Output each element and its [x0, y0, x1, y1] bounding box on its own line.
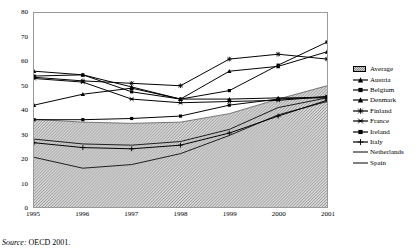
data-point-square	[34, 118, 36, 121]
legend-marker-line-icon	[352, 147, 369, 157]
source-prefix: Source:	[2, 238, 27, 247]
legend-item-netherlands[interactable]: Netherlands	[352, 147, 418, 157]
data-point-square	[130, 117, 133, 120]
x-tick-label: 1999	[223, 210, 237, 218]
legend-marker-hatched-swatch-icon	[352, 64, 369, 74]
data-point-square	[228, 104, 231, 107]
legend-marker-plus-icon	[352, 137, 369, 147]
y-tick-label: 10	[21, 180, 28, 187]
y-tick-label: 70	[21, 33, 28, 40]
legend-label: France	[370, 117, 389, 125]
x-tick-label: 2001	[321, 210, 335, 218]
data-point-square	[81, 118, 84, 121]
data-point-square	[325, 41, 327, 44]
data-point-square	[358, 129, 362, 133]
data-point-asterisk	[325, 57, 327, 62]
y-tick-label: 50	[21, 82, 28, 89]
legend-swatch-icon	[353, 66, 366, 72]
data-point-triangle	[325, 50, 327, 54]
legend-item-austria[interactable]: Austria	[352, 74, 418, 84]
data-point-square	[130, 90, 133, 93]
y-axis: 01020304050607080	[0, 12, 31, 208]
x-tick-label: 1995	[26, 210, 40, 218]
data-point-square	[179, 114, 182, 117]
legend-marker-square-icon	[352, 127, 369, 137]
legend-item-italy[interactable]: Italy	[352, 137, 418, 147]
legend-item-ireland[interactable]: Ireland	[352, 126, 418, 136]
plot-canvas	[34, 13, 327, 207]
data-point-square	[277, 98, 280, 101]
legend-label: Average	[370, 65, 393, 73]
data-point-plus	[358, 139, 364, 145]
y-tick-label: 30	[21, 131, 28, 138]
y-tick-label: 80	[21, 9, 28, 16]
legend-label: Finland	[370, 107, 391, 115]
data-point-square	[277, 64, 280, 67]
chart-legend: AverageAustriaBelgiumDenmarkFinlandFranc…	[352, 64, 418, 168]
legend-label: Austria	[370, 76, 391, 84]
legend-marker-line-icon	[352, 158, 369, 168]
data-point-asterisk	[227, 57, 232, 62]
legend-marker-asterisk-icon	[352, 106, 369, 116]
series-line	[34, 54, 327, 86]
data-point-star	[129, 97, 134, 101]
chart-figure: 01020304050607080 1995199619971998199920…	[0, 0, 418, 252]
legend-item-denmark[interactable]: Denmark	[352, 95, 418, 105]
legend-marker-star-icon	[352, 116, 369, 126]
y-tick-label: 20	[21, 156, 28, 163]
series-finland	[34, 52, 327, 88]
series-line	[34, 42, 327, 99]
legend-item-belgium[interactable]: Belgium	[352, 85, 418, 95]
data-point-star	[178, 101, 183, 105]
legend-label: Netherlands	[370, 148, 404, 156]
plot-area	[33, 12, 328, 208]
legend-label: Belgium	[370, 86, 394, 94]
legend-item-finland[interactable]: Finland	[352, 106, 418, 116]
y-tick-label: 60	[21, 58, 28, 65]
data-point-square	[358, 88, 362, 92]
data-point-asterisk	[276, 52, 281, 57]
legend-item-average[interactable]: Average	[352, 64, 418, 74]
data-point-asterisk	[178, 83, 183, 88]
legend-label: Ireland	[370, 128, 390, 136]
y-tick-label: 40	[21, 107, 28, 114]
x-axis: 1995199619971998199920002001	[33, 210, 328, 224]
x-tick-label: 2000	[272, 210, 286, 218]
data-point-star	[358, 119, 364, 124]
x-tick-label: 1996	[75, 210, 89, 218]
data-point-asterisk	[129, 81, 134, 86]
legend-item-spain[interactable]: Spain	[352, 158, 418, 168]
legend-marker-square-icon	[352, 85, 369, 95]
data-point-asterisk	[358, 108, 364, 114]
data-point-square	[228, 89, 231, 92]
legend-label: Italy	[370, 138, 383, 146]
legend-label: Spain	[370, 159, 386, 167]
x-tick-label: 1998	[174, 210, 188, 218]
source-value: OECD 2001.	[29, 238, 71, 247]
legend-marker-triangle-icon	[352, 95, 369, 105]
source-note: Source: OECD 2001.	[2, 238, 70, 247]
legend-item-france[interactable]: France	[352, 116, 418, 126]
legend-label: Denmark	[370, 96, 396, 104]
legend-marker-triangle-icon	[352, 75, 369, 85]
series-belgium	[34, 41, 327, 101]
x-tick-label: 1997	[124, 210, 138, 218]
